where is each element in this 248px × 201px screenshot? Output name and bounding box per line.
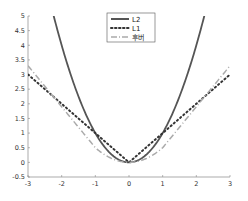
y-tick-label: 5 — [21, 12, 25, 20]
y-tick-label: 1 — [21, 129, 25, 137]
x-tick-label: -2 — [58, 180, 64, 188]
legend-label-l1: L1 — [132, 25, 140, 33]
x-tick-label: -3 — [25, 180, 31, 188]
y-tick-label: 0.5 — [15, 144, 25, 152]
x-tick-label: 1 — [161, 180, 165, 188]
y-tick-label: 2.5 — [15, 85, 25, 93]
y-tick-label: 2 — [21, 100, 25, 108]
x-tick-label: -1 — [92, 180, 98, 188]
y-tick-label: 3.5 — [15, 56, 25, 64]
y-tick-label: 3 — [21, 71, 25, 79]
y-tick-label: 4 — [21, 42, 25, 50]
x-tick-label: 2 — [194, 180, 198, 188]
loss-function-chart: -3-2-10123-0.500.511.522.533.544.55 L2 L… — [0, 0, 248, 201]
x-tick-label: 0 — [127, 180, 131, 188]
l1-curve — [28, 75, 230, 163]
legend: L2 L1 후버 — [107, 13, 155, 42]
y-tick-label: 1.5 — [15, 115, 25, 123]
legend-label-l2: L2 — [132, 16, 140, 24]
y-tick-label: 0 — [21, 159, 25, 167]
huber-curve — [28, 66, 230, 163]
y-tick-label: -0.5 — [12, 173, 25, 181]
legend-label-huber: 후버 — [132, 33, 144, 42]
x-tick-label: 3 — [228, 180, 232, 188]
y-tick-label: 4.5 — [15, 27, 25, 35]
